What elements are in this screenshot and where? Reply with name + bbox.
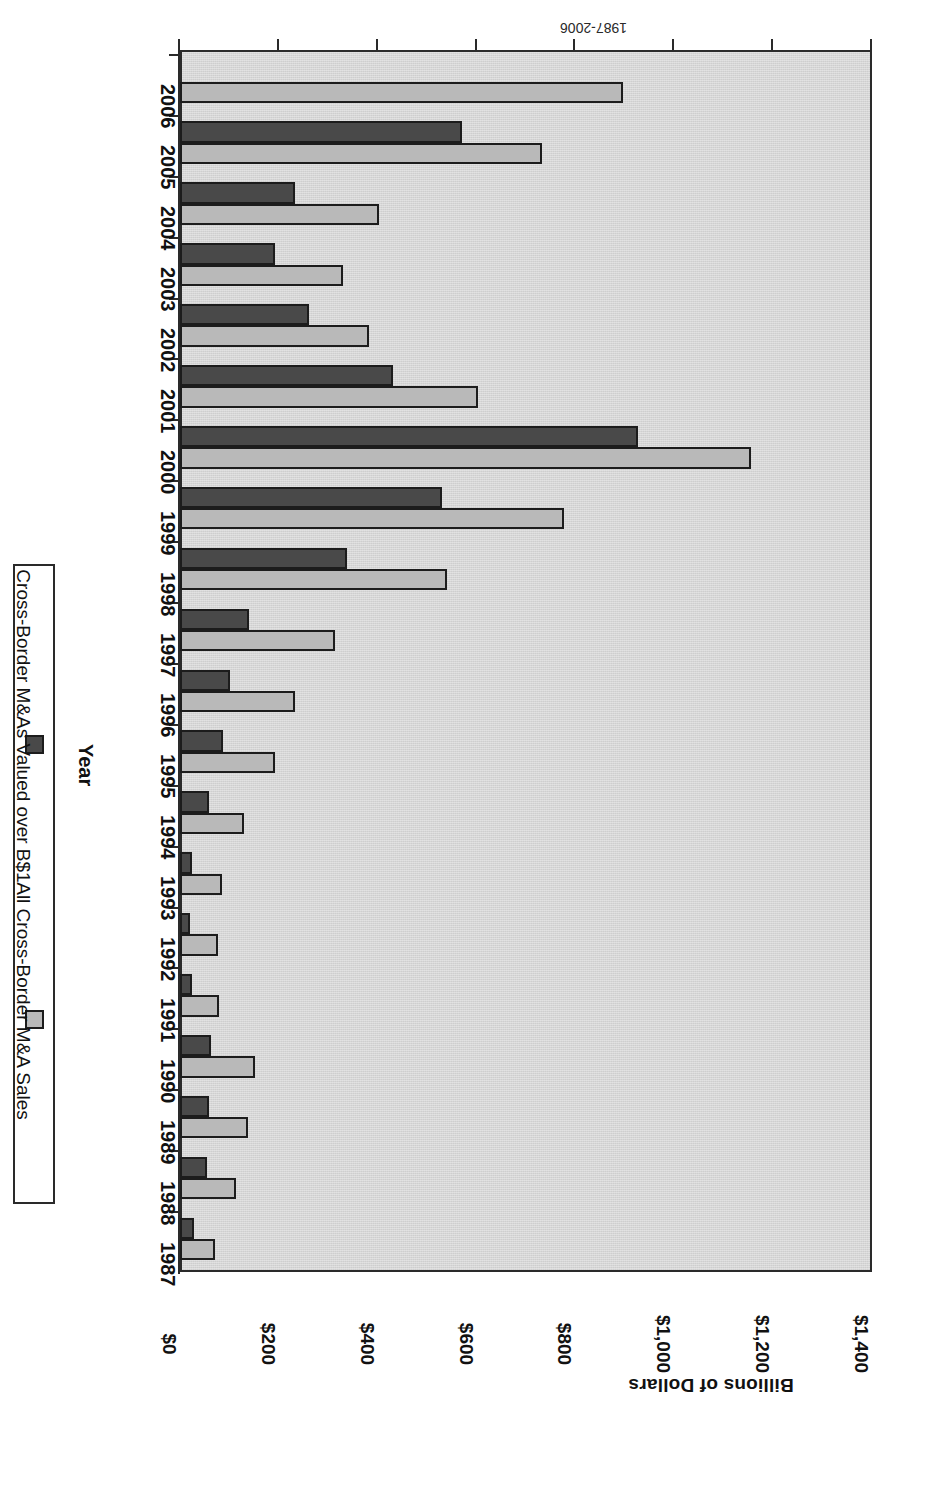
bar-cross-border-m-and-as-over-b1 [180,1157,207,1178]
bar-cross-border-m-and-as-over-b1 [180,974,192,995]
category-tick-label-text: 2004 [156,206,179,251]
bar-cross-border-m-and-as-over-b1 [180,426,638,447]
value-axis-tick [277,39,279,50]
value-axis-tick [771,39,773,50]
bar-cross-border-m-and-as-over-b1 [180,365,393,386]
category-axis-tick-labels: 1987198819891990199119921993199419951996… [87,50,167,1272]
category-tick-label-text: 2006 [156,84,179,129]
bar-all-cross-border-m-and-a-sales [180,204,379,225]
bar-all-cross-border-m-and-a-sales [180,1178,236,1199]
bar-all-cross-border-m-and-a-sales [180,995,219,1016]
chart-legend: Cross-Border M&As Valued over B$1All Cro… [13,564,55,1204]
bar-cross-border-m-and-as-over-b1 [180,1035,211,1056]
category-tick-label-text: 1999 [156,511,179,556]
category-axis-tick [169,54,180,56]
bar-all-cross-border-m-and-a-sales [180,1239,215,1260]
bar-cross-border-m-and-as-over-b1 [180,548,347,569]
bar-cross-border-m-and-as-over-b1 [180,304,309,325]
bar-cross-border-m-and-as-over-b1 [180,243,275,264]
value-tick-label-text: $400 [356,1323,378,1365]
category-tick-label-text: 1991 [156,998,179,1043]
category-tick-label-text: 1995 [156,754,179,799]
category-tick-label-text: 1987 [156,1242,179,1287]
bar-cross-border-m-and-as-over-b1 [180,730,223,751]
bar-all-cross-border-m-and-a-sales [180,813,244,834]
bar-cross-border-m-and-as-over-b1 [180,670,230,691]
value-axis-tick [376,39,378,50]
bar-all-cross-border-m-and-a-sales [180,569,447,590]
value-axis-tick [178,39,180,50]
bar-cross-border-m-and-as-over-b1 [180,852,192,873]
bar-cross-border-m-and-as-over-b1 [180,1218,194,1239]
category-tick-label-text: 1992 [156,937,179,982]
bar-all-cross-border-m-and-a-sales [180,508,564,529]
bar-all-cross-border-m-and-a-sales [180,143,542,164]
category-tick-label-text: 1997 [156,633,179,678]
value-axis-tick [870,39,872,50]
bar-all-cross-border-m-and-a-sales [180,325,369,346]
bar-cross-border-m-and-as-over-b1 [180,791,209,812]
bar-series-layer [180,52,872,1270]
bar-all-cross-border-m-and-a-sales [180,934,218,955]
value-axis-tick [573,39,575,50]
bar-cross-border-m-and-as-over-b1 [180,609,249,630]
category-tick-label-text: 1988 [156,1181,179,1226]
value-tick-label-text: $800 [553,1323,575,1365]
value-axis-tick [672,39,674,50]
bar-all-cross-border-m-and-a-sales [180,265,343,286]
bar-cross-border-m-and-as-over-b1 [180,487,442,508]
bar-all-cross-border-m-and-a-sales [180,447,751,468]
bar-all-cross-border-m-and-a-sales [180,630,335,651]
value-tick-label-text: $1,200 [751,1315,773,1373]
bar-all-cross-border-m-and-a-sales [180,1056,255,1077]
bar-all-cross-border-m-and-a-sales [180,386,478,407]
category-tick-label-text: 2000 [156,450,179,495]
bar-cross-border-m-and-as-over-b1 [180,121,462,142]
bar-all-cross-border-m-and-a-sales [180,874,222,895]
value-axis-tick [475,39,477,50]
value-axis-tick-labels: $0$200$400$600$800$1,000$1,200$1,400 [180,1274,872,1344]
figure-caption: 1987-2006 [560,20,627,36]
value-tick-label-text: $200 [257,1323,279,1365]
category-tick-label-text: 1990 [156,1059,179,1104]
category-tick-label-text: 2001 [156,389,179,434]
bar-all-cross-border-m-and-a-sales [180,691,295,712]
rotated-page-stage: Billions of Dollars $0$200$400$600$800$1… [0,0,927,1504]
bar-all-cross-border-m-and-a-sales [180,752,275,773]
category-axis-title: Year [74,744,97,786]
category-tick-label-text: 2003 [156,267,179,312]
category-tick-label-text: 1996 [156,693,179,738]
value-tick-label-text: $1,000 [652,1315,674,1373]
bar-cross-border-m-and-as-over-b1 [180,182,295,203]
category-tick-label-text: 1989 [156,1120,179,1165]
bar-all-cross-border-m-and-a-sales [180,1117,248,1138]
chart-figure: Billions of Dollars $0$200$400$600$800$1… [0,0,927,1504]
value-axis-title: Billions of Dollars [591,1374,831,1396]
bar-cross-border-m-and-as-over-b1 [180,913,190,934]
bar-all-cross-border-m-and-a-sales [180,82,623,103]
category-tick-label-text: 1994 [156,815,179,860]
value-tick-label-text: $0 [158,1333,180,1354]
legend-item-label: Cross-Border M&As Valued over B$1 [12,569,34,882]
bar-cross-border-m-and-as-over-b1 [180,1096,209,1117]
category-tick-label-text: 1998 [156,572,179,617]
value-tick-label-text: $1,400 [850,1315,872,1373]
value-tick-label-text: $600 [455,1323,477,1365]
legend-item-label: All Cross-Border M&A Sales [12,882,34,1120]
category-tick-label-text: 2002 [156,328,179,373]
category-tick-label-text: 2005 [156,145,179,190]
category-tick-label-text: 1993 [156,876,179,921]
